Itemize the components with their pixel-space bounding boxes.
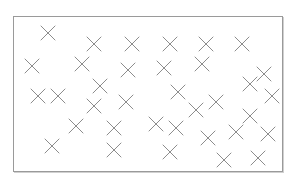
cross-icon — [163, 37, 177, 51]
cross-icon — [217, 153, 231, 167]
cross-icon — [169, 121, 183, 135]
cross-icon — [51, 89, 65, 103]
cross-icon — [201, 131, 215, 145]
cross-icon — [87, 99, 101, 113]
cross-icon — [121, 63, 135, 77]
cross-icon — [45, 139, 59, 153]
cross-icon — [265, 89, 279, 103]
cross-icon — [199, 37, 213, 51]
cross-icon — [107, 143, 121, 157]
cross-icon — [261, 127, 275, 141]
cross-icon — [243, 109, 257, 123]
cross-icon — [25, 59, 39, 73]
cross-icon — [93, 79, 107, 93]
cross-icon — [195, 57, 209, 71]
cross-icon — [125, 37, 139, 51]
cross-icon — [157, 61, 171, 75]
cross-markers-layer — [0, 0, 290, 184]
cross-icon — [41, 26, 55, 40]
cross-icon — [229, 125, 243, 139]
cross-icon — [87, 37, 101, 51]
cross-icon — [119, 95, 133, 109]
cross-icon — [75, 57, 89, 71]
cross-icon — [243, 77, 257, 91]
cross-icon — [31, 89, 45, 103]
cross-icon — [251, 151, 265, 165]
cross-icon — [149, 117, 163, 131]
cross-icon — [189, 103, 203, 117]
diagram-canvas — [0, 0, 290, 184]
cross-icon — [163, 145, 177, 159]
cross-icon — [107, 121, 121, 135]
cross-icon — [171, 85, 185, 99]
cross-icon — [209, 95, 223, 109]
cross-icon — [69, 119, 83, 133]
cross-icon — [257, 67, 271, 81]
cross-icon — [235, 37, 249, 51]
